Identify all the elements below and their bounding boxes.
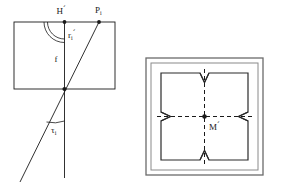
technical-diagram-svg: H´ Pi ri´ f τi: [0, 0, 281, 193]
label-tau-i: τi: [51, 125, 57, 136]
point-intersection: [62, 87, 66, 91]
right-panel: M´: [146, 58, 263, 175]
figure-root: H´ Pi ri´ f τi: [0, 0, 281, 193]
label-m-prime: M´: [209, 121, 220, 132]
oblique-ray: [20, 22, 99, 182]
label-r-i-prime: ri´: [68, 29, 76, 42]
point-h-prime: [63, 20, 67, 24]
left-panel: H´ Pi ri´ f τi: [14, 5, 115, 182]
center-point-m: [202, 114, 207, 119]
angle-arc-double-at-h-outer: [44, 22, 65, 43]
point-p-i: [97, 20, 101, 24]
label-h-prime: H´: [56, 5, 66, 16]
label-p-i: Pi: [95, 5, 102, 16]
label-f: f: [55, 54, 58, 64]
